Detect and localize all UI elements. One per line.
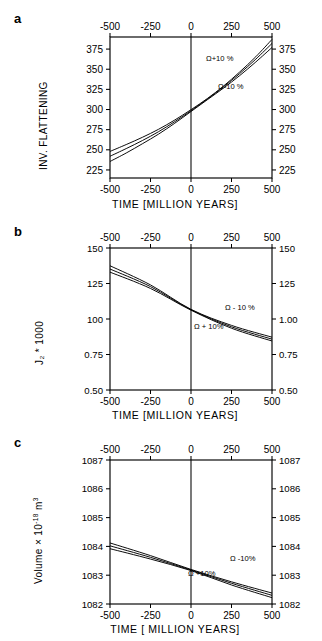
y-tick-label-right: 1082	[279, 599, 300, 610]
y-tick-label-right: 275	[279, 124, 296, 135]
annotation-lower: Ω +10%	[188, 569, 216, 578]
y-tick-label-right: 300	[279, 104, 296, 115]
y-tick-label-left: 275	[86, 124, 103, 135]
annotation-upper: Ω - 10 %	[225, 303, 255, 312]
panel-c-x-axis-title: TIME [ MILLION YEARS]	[14, 623, 322, 635]
y-tick-label-right: 1083	[279, 570, 300, 581]
y-tick-label-left: 300	[86, 104, 103, 115]
y-tick-label-right: 1084	[279, 541, 301, 552]
y-tick-label-right: 125	[279, 278, 295, 289]
x-tick-label-top: 0	[188, 444, 194, 455]
panel-b-y-axis-title-text: J₂ * 1000	[34, 321, 45, 365]
y-tick-label-right: 150	[279, 243, 295, 254]
y-tick-label-left: 1085	[82, 512, 103, 523]
y-tick-label-left: 125	[87, 278, 103, 289]
y-tick-label-left: 250	[86, 144, 103, 155]
y-tick-label-left: 1082	[82, 599, 103, 610]
x-tick-label-bottom: -250	[140, 396, 160, 407]
panel-c: c -500-500-250-2500025025050050010821082…	[0, 424, 322, 641]
x-tick-label-bottom: 0	[188, 396, 194, 407]
panel-b-plot: -500-500-250-250002502505005000.500.500.…	[0, 213, 322, 426]
annotation-upper: Ω -10%	[230, 554, 256, 563]
x-tick-label-top: -250	[140, 444, 160, 455]
panel-a: a -500-500-250-2500025025050050022522525…	[0, 0, 322, 215]
y-tick-label-right: 350	[279, 64, 296, 75]
x-tick-label-bottom: 500	[264, 396, 281, 407]
y-tick-label-right: 225	[279, 165, 296, 176]
panel-c-y-axis-exponent: -18	[32, 513, 39, 524]
x-tick-label-top: -250	[140, 21, 160, 32]
y-tick-label-right: 1086	[279, 483, 300, 494]
y-tick-label-right: 0.75	[279, 349, 298, 360]
panel-c-y-axis-title-mid: m	[33, 501, 44, 513]
y-tick-label-right: 1085	[279, 512, 300, 523]
x-tick-label-bottom: -500	[100, 610, 120, 621]
y-tick-label-left: 0.50	[84, 385, 103, 396]
y-tick-label-left: 1084	[82, 541, 104, 552]
y-tick-label-left: 325	[86, 84, 103, 95]
x-tick-label-top: -250	[140, 232, 160, 243]
panel-a-y-axis-title: INV. FLATTENING	[38, 81, 49, 170]
annotation-lower: Ω-10 %	[218, 82, 244, 91]
x-tick-label-bottom: 500	[264, 184, 281, 195]
panel-c-y-axis-title-pre: Volume × 10	[33, 524, 44, 584]
panel-a-x-axis-title: TIME [MILLION YEARS]	[14, 198, 322, 210]
x-tick-label-top: -500	[100, 232, 120, 243]
x-tick-label-bottom: 0	[188, 610, 194, 621]
panel-b-x-axis-title: TIME [MILLION YEARS]	[14, 409, 322, 421]
annotation-lower: Ω + 10%	[194, 322, 224, 331]
x-tick-label-top: 0	[188, 21, 194, 32]
x-tick-label-bottom: -250	[140, 610, 160, 621]
y-tick-label-left: 1083	[82, 570, 103, 581]
y-tick-label-right: 1.00	[279, 314, 298, 325]
y-tick-label-right: 1087	[279, 455, 300, 466]
y-tick-label-right: 0.50	[279, 385, 298, 396]
figure-root: a -500-500-250-2500025025050050022522525…	[0, 0, 322, 641]
x-tick-label-bottom: 500	[264, 610, 281, 621]
x-tick-label-bottom: 250	[223, 184, 240, 195]
x-tick-label-bottom: 0	[188, 184, 194, 195]
panel-b: b -500-500-250-250002502505005000.500.50…	[0, 213, 322, 426]
x-tick-label-top: -500	[100, 444, 120, 455]
x-tick-label-bottom: -250	[140, 184, 160, 195]
y-tick-label-left: 1087	[82, 455, 103, 466]
y-tick-label-left: 375	[86, 44, 103, 55]
x-tick-label-bottom: -500	[100, 396, 120, 407]
y-tick-label-right: 325	[279, 84, 296, 95]
y-tick-label-left: 225	[86, 165, 103, 176]
annotation-upper: Ω+10 %	[206, 54, 234, 63]
y-tick-label-right: 250	[279, 144, 296, 155]
x-tick-label-top: -500	[100, 21, 120, 32]
panel-c-plot: -500-500-250-250002502505005001082108210…	[0, 424, 322, 641]
y-tick-label-right: 375	[279, 44, 296, 55]
x-tick-label-top: 0	[188, 232, 194, 243]
panel-c-y-axis-unit-exponent: 3	[32, 497, 39, 501]
x-tick-label-bottom: 250	[223, 610, 240, 621]
panel-b-y-axis-title: J₂ * 1000	[34, 321, 45, 365]
x-tick-label-bottom: 250	[223, 396, 240, 407]
x-tick-label-top: 500	[264, 444, 281, 455]
x-tick-label-top: 500	[264, 232, 281, 243]
x-tick-label-top: 250	[223, 444, 240, 455]
y-tick-label-left: 150	[87, 243, 103, 254]
x-tick-label-bottom: -500	[100, 184, 120, 195]
y-tick-label-left: 350	[86, 64, 103, 75]
x-tick-label-top: 500	[264, 21, 281, 32]
y-tick-label-left: 0.75	[84, 349, 103, 360]
x-tick-label-top: 250	[223, 232, 240, 243]
y-tick-label-left: 1086	[82, 483, 103, 494]
panel-c-y-axis-title: Volume × 10-18 m3	[32, 497, 44, 584]
x-tick-label-top: 250	[223, 21, 240, 32]
y-tick-label-left: 100	[87, 314, 103, 325]
